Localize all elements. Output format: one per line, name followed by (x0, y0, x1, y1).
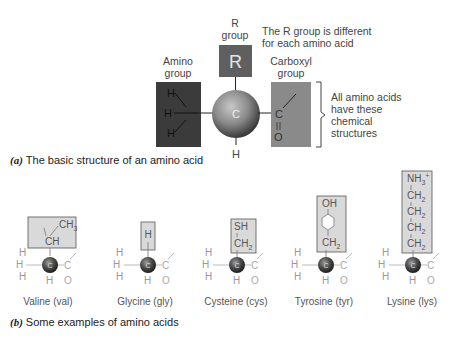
svg-text:C: C (234, 262, 239, 269)
svg-text:H: H (294, 247, 301, 258)
amino-acid-name: Valine (val) (8, 296, 88, 307)
svg-text:H: H (205, 247, 212, 258)
lysine-structure: NH3+ CH2 CH2 CH2 CH2 C H H H C O H (378, 171, 439, 286)
amino-acid-basic-structure: R H H H C H C O CH3 CH C H H H C O H (0, 0, 459, 342)
svg-text:C: C (251, 260, 258, 271)
svg-text:O: O (64, 275, 72, 286)
caption-a-text: The basic structure of an amino acid (26, 154, 203, 166)
svg-text:O: O (162, 275, 170, 286)
svg-text:H: H (233, 275, 240, 286)
svg-text:O: O (274, 131, 283, 143)
svg-text:C: C (64, 260, 71, 271)
svg-text:H: H (167, 87, 175, 99)
svg-text:SH: SH (234, 221, 248, 232)
svg-text:H: H (19, 271, 26, 282)
amino-group-box (156, 82, 201, 147)
bracket-note-line: have these (331, 103, 411, 115)
bracket-note-line: All amino acids (331, 91, 411, 103)
svg-text:H: H (202, 259, 209, 270)
amino-acid-name: Glycine (gly) (105, 296, 185, 307)
svg-text:H: H (164, 107, 172, 119)
svg-text:H: H (144, 275, 151, 286)
svg-text:C: C (275, 108, 283, 120)
caption-b-text: Some examples of amino acids (26, 316, 179, 328)
svg-text:C: C (47, 262, 52, 269)
bracket-note: All amino acids have these chemical stru… (331, 91, 411, 139)
svg-text:H: H (291, 259, 298, 270)
svg-text:H: H (113, 259, 120, 270)
svg-text:H: H (167, 127, 175, 139)
cysteine-structure: SH CH2 C H H H C O H (202, 219, 263, 286)
svg-text:CH: CH (45, 236, 59, 247)
svg-text:H: H (382, 271, 389, 282)
svg-text:H: H (19, 247, 26, 258)
amino-acid-name: Tyrosine (tyr) (284, 296, 364, 307)
svg-text:C: C (232, 108, 240, 120)
svg-text:H: H (16, 259, 23, 270)
svg-text:H: H (205, 271, 212, 282)
svg-text:C: C (162, 260, 169, 271)
svg-text:H: H (322, 275, 329, 286)
caption-a-letter: (a) (10, 154, 23, 166)
bracket-note-line: structures (331, 127, 411, 139)
svg-text:C: C (323, 262, 328, 269)
svg-text:C: C (427, 260, 434, 271)
amino-acid-name: Cysteine (cys) (196, 296, 276, 307)
svg-text:H: H (382, 247, 389, 258)
svg-text:H: H (116, 271, 123, 282)
svg-text:H: H (409, 275, 416, 286)
svg-text:H: H (232, 148, 240, 160)
glycine-structure: H C H H H C O H (113, 222, 174, 286)
tyrosine-structure: OH CH2 C H H H C O H (291, 196, 352, 286)
svg-text:OH: OH (322, 198, 337, 209)
svg-text:C: C (410, 262, 415, 269)
svg-text:O: O (251, 275, 259, 286)
svg-text:O: O (427, 275, 435, 286)
svg-text:H: H (144, 229, 151, 240)
svg-text:O: O (340, 275, 348, 286)
caption-b: (b)Some examples of amino acids (10, 316, 179, 328)
svg-text:H: H (116, 247, 123, 258)
caption-a: (a)The basic structure of an amino acid (10, 154, 203, 166)
svg-text:C: C (340, 260, 347, 271)
svg-text:H: H (46, 275, 53, 286)
svg-text:R: R (229, 52, 242, 72)
valine-structure: CH3 CH C H H H C O H (16, 217, 77, 286)
svg-text:C: C (145, 262, 150, 269)
caption-b-letter: (b) (10, 316, 23, 328)
svg-text:H: H (294, 271, 301, 282)
bracket (316, 82, 325, 147)
bracket-note-line: chemical (331, 115, 411, 127)
amino-acid-name: Lysine (lys) (372, 296, 452, 307)
svg-text:H: H (378, 259, 385, 270)
